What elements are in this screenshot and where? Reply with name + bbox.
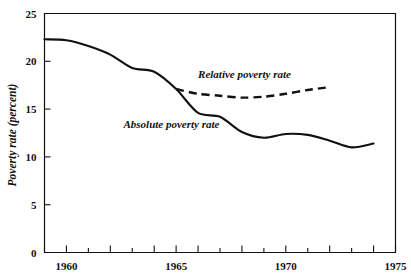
y-tick-label-20: 20 — [26, 55, 38, 67]
y-tick-label-25: 25 — [26, 8, 38, 20]
x-tick-label-1975: 1975 — [385, 260, 408, 272]
y-tick-label-5: 5 — [31, 199, 37, 211]
y-tick-label-0: 0 — [31, 247, 37, 259]
chart-background — [0, 0, 411, 275]
relative-series-label: Relative poverty rate — [197, 68, 291, 80]
chart-page: 1960196519701975 0510152025 Relative pov… — [0, 0, 411, 275]
y-tick-label-15: 15 — [26, 103, 38, 115]
y-axis-title: Poverty rate (percent) — [6, 83, 19, 186]
x-tick-label-1970: 1970 — [275, 260, 298, 272]
x-tick-label-1960: 1960 — [55, 260, 78, 272]
absolute-series-label: Absolute poverty rate — [122, 118, 219, 130]
x-tick-label-1965: 1965 — [165, 260, 188, 272]
poverty-rate-line-chart: 1960196519701975 0510152025 Relative pov… — [0, 0, 411, 275]
y-tick-label-10: 10 — [26, 151, 38, 163]
